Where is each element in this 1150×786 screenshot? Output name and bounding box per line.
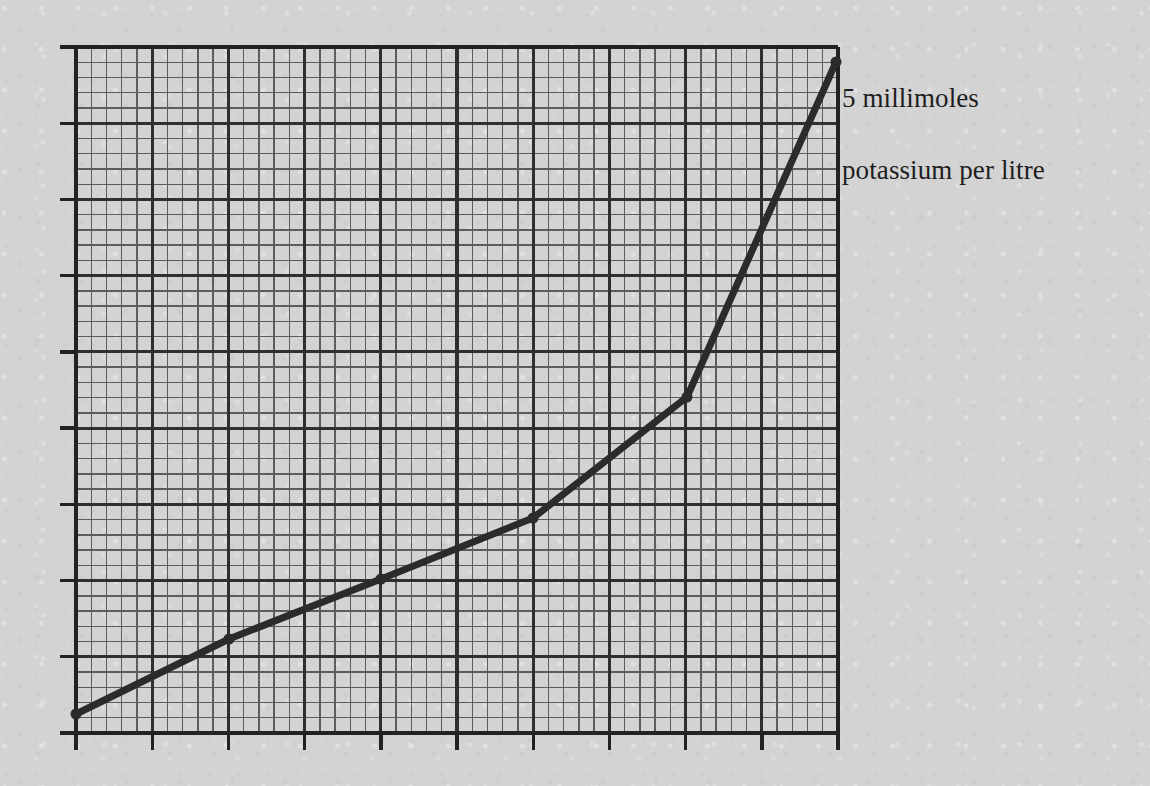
- data-point-marker: [831, 57, 842, 68]
- chart-figure: 5 millimoles potassium per litre: [0, 0, 1150, 786]
- annotation-line-2: potassium per litre: [842, 152, 1132, 188]
- data-point-marker: [376, 574, 387, 585]
- annotation-line-1: 5 millimoles: [842, 80, 1132, 116]
- data-point-marker: [682, 392, 693, 403]
- data-point-marker: [528, 513, 539, 524]
- major-gridlines: [76, 47, 838, 733]
- data-point-marker: [71, 709, 82, 720]
- data-point-marker: [224, 634, 235, 645]
- series-annotation: 5 millimoles potassium per litre: [842, 44, 1132, 224]
- axis-ticks: [60, 47, 838, 750]
